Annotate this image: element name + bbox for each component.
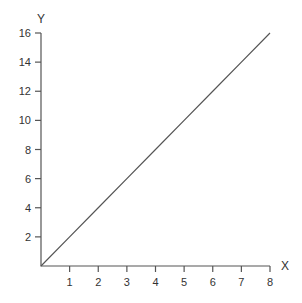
y-tick-label: 4: [25, 202, 31, 214]
line-chart: 246810121416 12345678 Y X: [0, 0, 302, 303]
x-tick-label: 3: [124, 276, 130, 288]
y-axis-title: Y: [37, 12, 45, 26]
x-tick-label: 5: [181, 276, 187, 288]
y-tick-label: 6: [25, 173, 31, 185]
y-tick-label: 16: [19, 27, 31, 39]
y-tick-label: 10: [19, 114, 31, 126]
x-tick-label: 1: [67, 276, 73, 288]
x-tick-label: 4: [152, 276, 158, 288]
x-tick-label: 7: [238, 276, 244, 288]
y-tick-label: 12: [19, 85, 31, 97]
x-tick-label: 6: [210, 276, 216, 288]
x-tick-label: 8: [267, 276, 273, 288]
x-axis-title: X: [281, 259, 289, 273]
data-line: [41, 33, 270, 266]
y-axis-ticks: 246810121416: [19, 27, 41, 243]
y-tick-label: 14: [19, 56, 31, 68]
x-tick-label: 2: [95, 276, 101, 288]
y-tick-label: 8: [25, 144, 31, 156]
y-tick-label: 2: [25, 231, 31, 243]
x-axis-ticks: 12345678: [67, 266, 274, 288]
